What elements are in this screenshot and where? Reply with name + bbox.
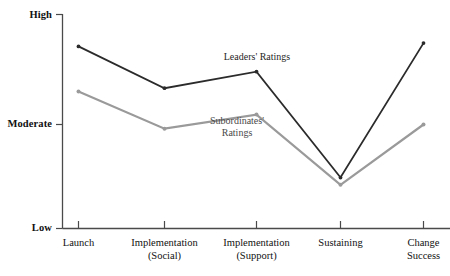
- data-point: [163, 127, 167, 131]
- data-point: [422, 41, 426, 45]
- x-axis-label-change-success-line1: Change: [384, 236, 450, 249]
- data-point: [339, 183, 343, 187]
- data-point: [422, 123, 426, 127]
- data-point: [339, 176, 343, 180]
- series-annotation-leaders: Leaders' Ratings: [197, 51, 317, 63]
- data-point: [163, 86, 167, 90]
- series-annotation-subordinates-line2: Ratings: [187, 127, 287, 139]
- data-point: [77, 45, 81, 49]
- data-point: [255, 70, 259, 74]
- y-axis-label-low: Low: [32, 222, 52, 233]
- y-axis-label-high: High: [29, 9, 52, 20]
- series-annotation-leaders-line1: Leaders' Ratings: [197, 51, 317, 63]
- x-axis-label-change-success-line2: Success: [384, 249, 450, 262]
- series-line-leaders: [79, 43, 424, 177]
- x-axis-label-sustaining: Sustaining: [291, 236, 391, 249]
- y-axis-label-moderate: Moderate: [7, 118, 52, 129]
- series-annotation-subordinates-line1: Subordinates': [187, 115, 287, 127]
- data-point: [77, 90, 81, 94]
- x-axis-label-change-success: Change Success: [384, 236, 450, 262]
- x-axis-label-sustaining-line1: Sustaining: [291, 236, 391, 249]
- series-annotation-subordinates: Subordinates' Ratings: [187, 115, 287, 139]
- x-axis-label-implementation-support-line2: (Support): [202, 249, 312, 262]
- line-chart-figure: High Moderate Low Launch Implementation …: [0, 0, 450, 276]
